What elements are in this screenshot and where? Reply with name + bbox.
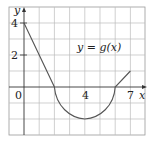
x-axis-label: x [139,89,146,102]
y-axis-label: y [13,4,21,17]
tick-label-x4: 4 [82,89,89,102]
y-axis-arrow-icon [22,7,26,12]
graph-of-g: y x 0 4 7 4 2 y = g(x) [0,0,152,143]
grid-horizontal [9,23,145,119]
origin-label: 0 [15,89,22,102]
tick-label-x7: 7 [127,89,134,102]
tick-label-y4: 4 [11,17,18,30]
equation-label: y = g(x) [76,41,121,54]
tick-label-y2: 2 [11,49,18,62]
